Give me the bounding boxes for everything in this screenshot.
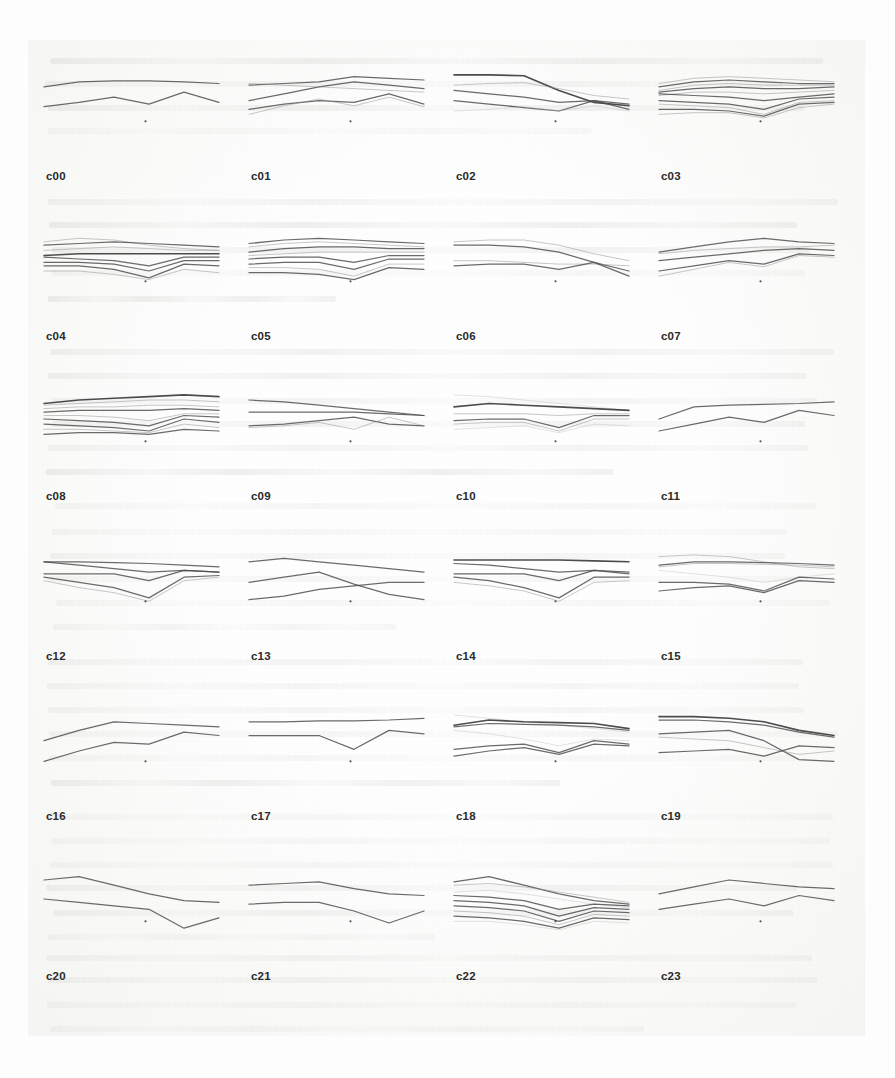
- series-line: [454, 715, 629, 732]
- chart-panel-c22: c22: [440, 852, 640, 1010]
- series-line: [249, 582, 424, 599]
- panel-label: c15: [661, 650, 681, 662]
- line-chart-c00: [30, 52, 230, 172]
- series-line: [44, 254, 219, 256]
- line-chart-c09: [235, 372, 435, 492]
- chart-panel-c10: c10: [440, 372, 640, 530]
- series-line: [659, 746, 834, 756]
- chart-panel-c01: c01: [235, 52, 435, 210]
- line-chart-c15: [645, 532, 845, 652]
- series-line: [44, 899, 219, 928]
- series-line: [44, 395, 219, 404]
- panel-label: c05: [251, 330, 271, 342]
- panel-label: c23: [661, 970, 681, 982]
- bleed-through-line: [50, 1026, 644, 1032]
- series-line: [249, 247, 424, 252]
- series-line: [249, 558, 424, 572]
- axis-tick-dot: [144, 440, 146, 442]
- line-chart-c06: [440, 212, 640, 332]
- series-line: [454, 570, 629, 580]
- chart-panel-c18: c18: [440, 692, 640, 850]
- panel-label: c21: [251, 970, 271, 982]
- series-line: [44, 877, 219, 903]
- axis-tick-dot: [554, 760, 556, 762]
- axis-tick-dot: [759, 600, 761, 602]
- line-chart-c13: [235, 532, 435, 652]
- chart-panel-c00: c00: [30, 52, 230, 210]
- panel-label: c20: [46, 970, 66, 982]
- axis-tick-dot: [554, 920, 556, 922]
- panel-label: c02: [456, 170, 476, 182]
- series-line: [454, 581, 629, 602]
- chart-panel-c23: c23: [645, 852, 845, 1010]
- panel-label: c10: [456, 490, 476, 502]
- series-line: [454, 404, 629, 411]
- panel-label: c12: [46, 650, 66, 662]
- series-line: [44, 81, 219, 87]
- series-line: [659, 101, 834, 115]
- series-line: [249, 730, 424, 749]
- line-chart-c16: [30, 692, 230, 812]
- series-line: [44, 576, 219, 598]
- axis-tick-dot: [554, 120, 556, 122]
- axis-tick-dot: [759, 920, 761, 922]
- axis-tick-dot: [144, 920, 146, 922]
- line-chart-c05: [235, 212, 435, 332]
- series-line: [454, 901, 629, 917]
- series-line: [44, 269, 219, 279]
- series-line: [44, 405, 219, 408]
- series-line: [249, 572, 424, 600]
- series-line: [659, 80, 834, 87]
- panel-label: c07: [661, 330, 681, 342]
- chart-panel-c08: c08: [30, 372, 230, 530]
- series-line: [454, 106, 629, 111]
- scanned-page: c00c01c02c03c04c05c06c07c08c09c10c11c12c…: [0, 0, 895, 1078]
- series-line: [659, 402, 834, 419]
- series-line: [44, 570, 219, 580]
- series-line: [44, 409, 219, 413]
- chart-panel-c03: c03: [645, 52, 845, 210]
- chart-panel-c20: c20: [30, 852, 230, 1010]
- line-chart-c21: [235, 852, 435, 972]
- chart-panel-c07: c07: [645, 212, 845, 370]
- series-line: [454, 577, 629, 598]
- panel-label: c18: [456, 810, 476, 822]
- panel-label: c17: [251, 810, 271, 822]
- chart-panel-c19: c19: [645, 692, 845, 850]
- series-line: [249, 882, 424, 896]
- line-chart-c23: [645, 852, 845, 972]
- line-chart-c11: [645, 372, 845, 492]
- series-line: [44, 416, 219, 426]
- series-line: [454, 240, 629, 261]
- series-line: [44, 732, 219, 761]
- series-line: [659, 896, 834, 910]
- axis-tick-dot: [144, 600, 146, 602]
- series-line: [454, 560, 629, 562]
- series-line: [454, 90, 629, 104]
- line-chart-c12: [30, 532, 230, 652]
- series-line: [659, 410, 834, 431]
- line-chart-c20: [30, 852, 230, 972]
- line-chart-c03: [645, 52, 845, 172]
- series-line: [454, 83, 629, 99]
- chart-panel-c16: c16: [30, 692, 230, 850]
- series-line: [249, 417, 424, 426]
- chart-panel-c04: c04: [30, 212, 230, 370]
- line-chart-c04: [30, 212, 230, 332]
- axis-tick-dot: [144, 760, 146, 762]
- series-line: [249, 718, 424, 722]
- series-line: [249, 902, 424, 923]
- panel-label: c00: [46, 170, 66, 182]
- chart-panel-c21: c21: [235, 852, 435, 1010]
- series-line: [249, 400, 424, 416]
- panel-label: c14: [456, 650, 476, 662]
- axis-tick-dot: [349, 120, 351, 122]
- series-line: [659, 720, 834, 737]
- axis-tick-dot: [554, 280, 556, 282]
- panel-label: c19: [661, 810, 681, 822]
- series-line: [659, 238, 834, 252]
- series-line: [454, 884, 629, 903]
- series-line: [454, 921, 629, 930]
- chart-panel-c13: c13: [235, 532, 435, 690]
- chart-panel-c02: c02: [440, 52, 640, 210]
